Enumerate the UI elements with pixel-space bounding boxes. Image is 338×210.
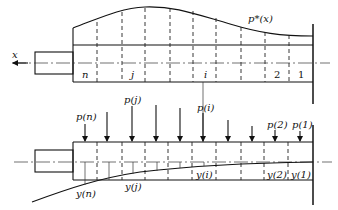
- load-label-pj: p(j): [124, 94, 141, 105]
- deflection-label-yj: y(j): [124, 181, 142, 192]
- deflection-curve: [32, 162, 313, 202]
- x-axis-label: x: [12, 49, 18, 60]
- load-label-pi: p(i): [197, 102, 215, 113]
- beam-diagram: x p*(x) n j i 2 1: [0, 0, 338, 210]
- segment-label-j: j: [129, 69, 134, 80]
- deflection-label-y1: y(1): [290, 169, 311, 180]
- deflection-label-yn: y(n): [75, 188, 96, 199]
- load-label-p1: p(1): [292, 119, 313, 130]
- deflection-label-y2: y(2): [266, 169, 287, 180]
- segment-label-1: 1: [298, 69, 304, 80]
- load-label-p2: p(2): [267, 119, 288, 130]
- load-label-pn: p(n): [76, 111, 97, 122]
- bottom-diagram: p(n) p(j) p(i) p(2) p(1) y(n) y(j) y(i) …: [14, 94, 332, 205]
- segment-label-i: i: [204, 69, 207, 80]
- segment-label-n: n: [82, 69, 88, 80]
- deflection-label-yi: y(i): [195, 169, 213, 180]
- segment-label-2: 2: [274, 69, 280, 80]
- shaft-bottom: [35, 150, 73, 172]
- curve-label: p*(x): [248, 13, 273, 24]
